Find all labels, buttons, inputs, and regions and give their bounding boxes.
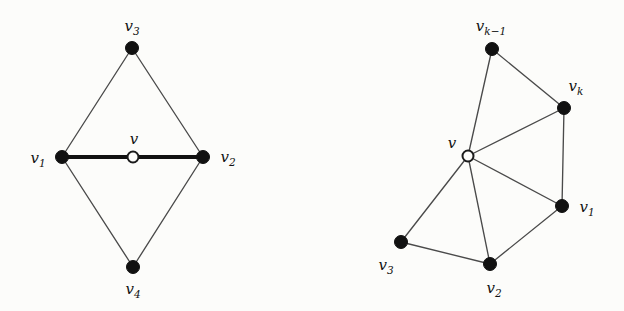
fan-graph-nodes — [395, 43, 571, 271]
edge-v-v2 — [468, 156, 490, 264]
fan-graph-edges — [401, 49, 564, 264]
edge-v-v3 — [401, 156, 468, 242]
vertex-node-v3 — [395, 236, 408, 249]
vertex-node-v2 — [197, 151, 210, 164]
graph-figure: vv1v2v3v4vvk−1vkv1v2v3 — [0, 0, 624, 311]
vertex-node-v1 — [556, 200, 569, 213]
vertex-label-v2: v2 — [486, 281, 501, 296]
edge-vk-v1 — [562, 108, 564, 206]
vertex-node-v1 — [56, 151, 69, 164]
edge-v2-v3 — [401, 242, 490, 264]
edge-v1-v2 — [490, 206, 562, 264]
edge-v-vk — [468, 108, 564, 156]
vertex-label-v3: v3 — [124, 19, 139, 34]
edge-v4-v2 — [133, 157, 203, 267]
vertex-node-v2 — [484, 258, 497, 271]
vertex-label-vk1: vk−1 — [476, 19, 506, 34]
edge-v3-v2 — [132, 48, 203, 157]
vertex-label-v3: v3 — [378, 258, 393, 273]
vertex-node-vk1 — [486, 43, 499, 56]
vertex-label-vk: vk — [569, 79, 584, 94]
vertex-label-v4: v4 — [125, 282, 140, 297]
vertex-label-v1: v1 — [30, 151, 45, 166]
vertex-label-v: v — [130, 132, 138, 147]
vertex-node-v4 — [127, 261, 140, 274]
vertex-node-v3 — [126, 42, 139, 55]
edge-vk1-vk — [492, 49, 564, 108]
graph-canvas — [0, 0, 624, 311]
edge-v-v1 — [468, 156, 562, 206]
vertex-label-v: v — [448, 136, 456, 151]
vertex-node-vk — [558, 102, 571, 115]
vertex-label-v2: v2 — [220, 150, 235, 165]
vertex-node-v — [463, 151, 474, 162]
edge-v1-v4 — [62, 157, 133, 267]
edge-v-vk1 — [468, 49, 492, 156]
vertex-node-v — [128, 152, 139, 163]
vertex-label-v1: v1 — [579, 200, 594, 215]
edge-v1-v3 — [62, 48, 132, 157]
